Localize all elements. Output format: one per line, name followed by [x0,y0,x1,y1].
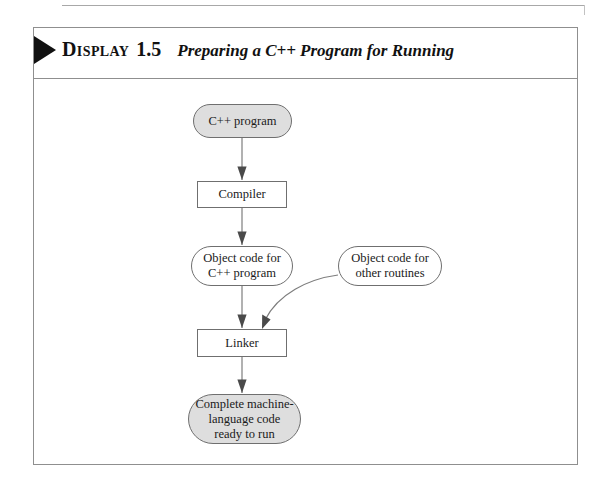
arrowhead-linker-left [237,315,246,329]
flowchart-canvas: C++ program Compiler Object code for C++… [34,79,577,465]
display-header: Display 1.5 Preparing a C++ Program for … [34,28,577,79]
node-complete-machine-language-code: Complete machine- language code ready to… [188,394,301,444]
node-linker: Linker [197,329,287,357]
display-frame: Display 1.5 Preparing a C++ Program for … [33,27,578,465]
node-object-code-other-routines: Object code for other routines [338,246,442,286]
node-object-code-cpp-line2: C++ program [203,266,281,281]
node-cpp-program: C++ program [193,104,292,138]
node-cpp-program-label: C++ program [209,114,277,129]
node-compiler: Compiler [197,181,287,208]
node-complete-line3: ready to run [195,427,293,442]
arrowhead-objectcpp [237,232,246,246]
node-complete-line1: Complete machine- [195,397,293,412]
flowchart-connectors [34,79,579,465]
node-complete-line2: language code [195,412,293,427]
node-linker-label: Linker [225,336,258,351]
display-subtitle: Preparing a C++ Program for Running [177,41,454,61]
right-triangle-icon [34,36,56,64]
display-number: 1.5 [136,38,161,61]
node-object-code-other-line1: Object code for [351,251,429,266]
display-title: Display 1.5 Preparing a C++ Program for … [62,38,454,61]
node-compiler-label: Compiler [218,187,265,202]
scan-artifact-line [62,5,585,6]
display-label: Display [62,38,129,61]
node-object-code-other-line2: other routines [351,266,429,281]
arrowhead-complete [237,380,246,394]
node-object-code-cpp-line1: Object code for [203,251,281,266]
arrowhead-compiler [237,167,246,181]
node-object-code-cpp: Object code for C++ program [191,246,293,286]
